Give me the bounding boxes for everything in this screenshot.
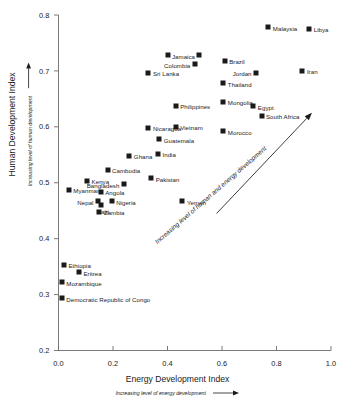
data-point-marker: [146, 70, 151, 75]
x-axis-direction-arrow-icon: [213, 382, 239, 400]
data-point-label: Colombia: [164, 61, 190, 68]
data-point-marker: [266, 25, 271, 30]
y-axis-title-text: Human Development Index: [8, 29, 18, 219]
data-point-label: Jamaica: [172, 52, 195, 59]
data-point-marker: [109, 199, 114, 204]
data-point-marker: [121, 182, 126, 187]
data-point-marker: [98, 202, 103, 207]
data-point-label: Thailand: [228, 80, 252, 87]
data-point-label: Ghana: [134, 153, 153, 160]
x-axis-tick-label: 0.2: [98, 359, 128, 368]
data-point-label: South Africa: [266, 113, 299, 120]
x-axis-tick-label: 0.6: [207, 359, 237, 368]
y-axis-tick-label: 0.3: [26, 290, 50, 299]
data-point-marker: [192, 62, 197, 67]
data-point-label: Vietnam: [180, 124, 203, 131]
data-point-marker: [307, 26, 312, 31]
scatter-chart: 0.20.30.40.50.60.70.8 0.00.20.40.60.81.0…: [0, 0, 355, 403]
data-point-marker: [221, 129, 226, 134]
data-point-label: Cambodia: [112, 167, 140, 174]
data-point-label: Egypt: [258, 103, 274, 110]
data-point-marker: [300, 68, 305, 73]
data-point-marker: [127, 153, 132, 158]
data-point-label: Angola: [105, 189, 124, 196]
data-point-label: Morocco: [228, 128, 252, 135]
data-point-marker: [221, 99, 226, 104]
data-point-marker: [59, 296, 64, 301]
data-point-label: Myanmar: [73, 187, 99, 194]
x-axis-tick-label: 0.4: [153, 359, 183, 368]
x-axis-tick-label: 1.0: [316, 359, 346, 368]
data-point-marker: [66, 188, 71, 193]
data-point-label: Mongolia: [228, 99, 253, 106]
y-axis-direction-arrow-icon: [18, 63, 36, 89]
y-axis-tick-label: 0.4: [26, 234, 50, 243]
data-point-label: India: [162, 151, 175, 158]
data-point-label: Nepal: [77, 198, 93, 205]
data-point-label: Guatemala: [164, 136, 194, 143]
x-axis-tick-label: 0.8: [262, 359, 292, 368]
data-point-label: Malaysia: [273, 24, 297, 31]
x-axis-subtitle-text: Increasing level of energy development: [116, 390, 206, 396]
data-point-label: Mozambique: [66, 279, 101, 286]
data-point-marker: [97, 209, 102, 214]
data-point-label: Jordan: [233, 69, 252, 76]
data-point-marker: [221, 81, 226, 86]
data-point-marker: [222, 58, 227, 63]
y-axis-title: Human Development Index Increasing level…: [8, 29, 37, 219]
y-axis-tick-label: 0.8: [26, 11, 50, 20]
data-point-marker: [196, 53, 201, 58]
data-point-marker: [59, 280, 64, 285]
y-axis-subtitle: Increasing level of human development: [17, 29, 36, 219]
data-point-label: Nigeria: [116, 198, 136, 205]
data-point-label: Sri Lanka: [153, 69, 179, 76]
data-point-marker: [149, 176, 154, 181]
data-point-marker: [76, 270, 81, 275]
data-point-marker: [259, 113, 264, 118]
x-axis-tick-label: 0.0: [44, 359, 74, 368]
data-point-label: Philippines: [180, 102, 210, 109]
data-point-marker: [251, 104, 256, 109]
data-point-marker: [254, 70, 259, 75]
data-point-label: Iran: [307, 68, 318, 75]
data-point-marker: [180, 199, 185, 204]
data-point-marker: [105, 167, 110, 172]
data-point-label: Nicaragua: [153, 125, 181, 132]
x-axis-subtitle: Increasing level of energy development: [0, 381, 355, 400]
data-point-marker: [173, 103, 178, 108]
data-point-marker: [146, 125, 151, 130]
data-point-label: Brazil: [229, 58, 245, 65]
data-point-label: Pakistan: [156, 175, 180, 182]
data-point-label: Eritrea: [83, 269, 101, 276]
data-point-label: Libya: [314, 26, 329, 33]
data-point-marker: [157, 137, 162, 142]
data-point-label: Democratic Republic of Congo: [66, 295, 150, 302]
y-axis-subtitle-text: Increasing level of human development: [26, 96, 32, 186]
data-point-label: Ethiopia: [68, 262, 90, 269]
data-point-marker: [165, 53, 170, 58]
data-point-marker: [61, 262, 66, 267]
data-point-marker: [98, 189, 103, 194]
y-axis-tick-label: 0.2: [26, 346, 50, 355]
data-point-marker: [155, 151, 160, 156]
data-point-label: Zambia: [104, 209, 125, 216]
